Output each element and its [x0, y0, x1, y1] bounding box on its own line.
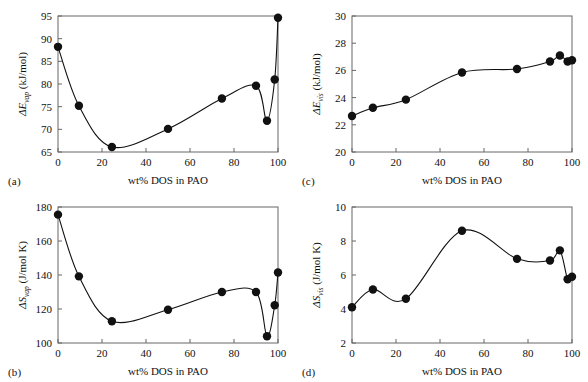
- svg-text:85: 85: [41, 55, 53, 67]
- svg-text:2: 2: [341, 337, 347, 349]
- panel-label-c: (c): [302, 175, 315, 187]
- data-point: [218, 288, 226, 296]
- svg-text:8: 8: [341, 235, 347, 247]
- svg-text:140: 140: [36, 269, 53, 281]
- data-point: [164, 305, 172, 313]
- svg-text:20: 20: [97, 156, 109, 168]
- data-point: [54, 43, 62, 51]
- svg-text:100: 100: [270, 347, 287, 359]
- data-point: [164, 125, 172, 133]
- data-point: [274, 268, 282, 276]
- data-point: [568, 273, 576, 281]
- svg-text:0: 0: [349, 156, 355, 168]
- svg-text:60: 60: [479, 347, 491, 359]
- svg-text:4: 4: [341, 303, 347, 315]
- svg-text:100: 100: [564, 347, 581, 359]
- y-axis-label-b: ΔSvap (J/mol K): [16, 207, 31, 343]
- svg-text:26: 26: [335, 64, 347, 76]
- data-point: [252, 288, 260, 296]
- x-axis-label-c: wt% DOS in PAO: [352, 174, 572, 186]
- svg-text:80: 80: [229, 156, 241, 168]
- svg-text:0: 0: [55, 156, 61, 168]
- plot-area-c: 202224262830020406080100: [294, 0, 588, 191]
- svg-text:100: 100: [36, 337, 53, 349]
- svg-text:30: 30: [335, 10, 347, 22]
- svg-text:80: 80: [523, 347, 535, 359]
- svg-text:20: 20: [97, 347, 109, 359]
- panel-a: 65707580859095020406080100 ΔEvap (kJ/mol…: [0, 0, 294, 191]
- svg-text:180: 180: [36, 201, 53, 213]
- x-axis-label-b: wt% DOS in PAO: [58, 365, 278, 377]
- svg-text:0: 0: [55, 347, 61, 359]
- svg-text:60: 60: [185, 156, 197, 168]
- data-point: [108, 317, 116, 325]
- data-point: [546, 256, 554, 264]
- data-point: [75, 102, 83, 110]
- panel-label-b: (b): [8, 366, 21, 378]
- data-line: [352, 230, 572, 307]
- data-point: [458, 68, 466, 76]
- panel-b: 100120140160180020406080100 ΔSvap (J/mol…: [0, 191, 294, 382]
- data-point: [556, 51, 564, 59]
- svg-text:6: 6: [341, 269, 347, 281]
- data-point: [271, 75, 279, 83]
- svg-text:20: 20: [391, 347, 403, 359]
- data-point: [348, 112, 356, 120]
- data-line: [58, 215, 278, 337]
- figure-four-panel-plot: 65707580859095020406080100 ΔEvap (kJ/mol…: [0, 0, 588, 382]
- data-point: [263, 117, 271, 125]
- data-point: [513, 255, 521, 263]
- x-axis-label-d: wt% DOS in PAO: [352, 365, 572, 377]
- svg-text:90: 90: [41, 33, 53, 45]
- data-line: [352, 55, 572, 116]
- data-point: [108, 143, 116, 151]
- data-point: [348, 303, 356, 311]
- svg-text:160: 160: [36, 235, 53, 247]
- svg-text:80: 80: [41, 78, 53, 90]
- y-axis-label-a: ΔEvap (kJ/mol): [16, 16, 31, 152]
- svg-text:120: 120: [36, 303, 53, 315]
- svg-text:80: 80: [229, 347, 241, 359]
- svg-text:20: 20: [391, 156, 403, 168]
- data-point: [458, 227, 466, 235]
- data-point: [546, 57, 554, 65]
- data-point: [252, 82, 260, 90]
- svg-text:70: 70: [41, 123, 53, 135]
- svg-text:28: 28: [335, 37, 347, 49]
- data-point: [369, 104, 377, 112]
- svg-text:60: 60: [185, 347, 197, 359]
- data-point: [271, 301, 279, 309]
- svg-text:22: 22: [335, 119, 346, 131]
- svg-text:40: 40: [141, 156, 153, 168]
- panel-d: 246810020406080100 ΔSvis (J/mol K) wt% D…: [294, 191, 588, 382]
- data-point: [263, 332, 271, 340]
- data-point: [274, 14, 282, 22]
- svg-text:75: 75: [41, 101, 53, 113]
- svg-text:20: 20: [335, 146, 347, 158]
- svg-text:0: 0: [349, 347, 355, 359]
- svg-text:60: 60: [479, 156, 491, 168]
- svg-text:40: 40: [141, 347, 153, 359]
- data-point: [218, 94, 226, 102]
- data-point: [556, 246, 564, 254]
- svg-text:65: 65: [41, 146, 53, 158]
- svg-text:80: 80: [523, 156, 535, 168]
- plot-area-d: 246810020406080100: [294, 191, 588, 382]
- data-point: [513, 65, 521, 73]
- data-point: [369, 285, 377, 293]
- svg-text:40: 40: [435, 347, 447, 359]
- x-axis-label-a: wt% DOS in PAO: [58, 174, 278, 186]
- panel-label-d: (d): [302, 366, 315, 378]
- svg-text:95: 95: [41, 10, 53, 22]
- svg-text:24: 24: [335, 92, 347, 104]
- svg-text:100: 100: [564, 156, 581, 168]
- data-point: [54, 210, 62, 218]
- data-point: [75, 272, 83, 280]
- panel-c: 202224262830020406080100 ΔEvis (kJ/mol) …: [294, 0, 588, 191]
- data-point: [568, 56, 576, 64]
- svg-text:40: 40: [435, 156, 447, 168]
- data-point: [402, 295, 410, 303]
- panel-label-a: (a): [8, 175, 21, 187]
- y-axis-label-c: ΔEvis (kJ/mol): [310, 16, 325, 152]
- data-point: [402, 95, 410, 103]
